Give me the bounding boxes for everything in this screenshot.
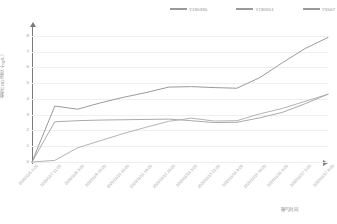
x-axis-tick-label: 2020/11/15 19:00 [243, 164, 267, 189]
x-axis-tick-label: 2020/11/9 15:00 [85, 164, 107, 188]
series-line-1 [32, 94, 328, 162]
x-axis-tick-label: 2020/11/16 9:00 [267, 164, 289, 188]
x-axis-tick-label: 2020/11/17 0:00 [290, 164, 312, 188]
series-line-2 [32, 94, 328, 162]
legend-item-0[interactable]: Y190330 [170, 7, 207, 12]
chart-container: Y190330 Y190551 Y5567 剩余COD浓度（mg/L） 曝气时间… [0, 0, 337, 224]
y-axis-title: 剩余COD浓度（mg/L） [1, 52, 10, 98]
legend-swatch-icon [303, 8, 320, 9]
x-axis-tick-label: 2020/11/12 19:00 [152, 164, 176, 189]
x-axis-tick-label: 2020/11/14 8:00 [221, 164, 243, 188]
x-axis-tick-label: 2020/11/17 8:00 [312, 164, 334, 188]
legend-swatch-icon [170, 8, 187, 9]
x-axis-tick-label: 2020/11/7 11:00 [39, 164, 61, 187]
y-axis-tick-label: 0 [27, 160, 29, 164]
chart-legend: Y190330 Y190551 Y5567 [170, 3, 335, 15]
x-axis-tick-label: 2020/11/13 22:00 [197, 164, 221, 189]
legend-label: Y5567 [322, 7, 335, 12]
y-axis-tick-label: 7 [27, 49, 29, 53]
gridline [32, 162, 328, 163]
legend-label: Y190551 [255, 7, 273, 12]
x-axis-tick-label: 2020/11/11 18:00 [129, 164, 153, 189]
legend-swatch-icon [236, 8, 253, 9]
y-axis-tick-label: 3 [27, 113, 29, 117]
y-axis-tick-label: 8 [27, 34, 29, 38]
y-axis-tick-label: 5 [27, 81, 29, 85]
y-axis-tick-label: 2 [27, 128, 29, 132]
legend-item-1[interactable]: Y190551 [236, 7, 273, 12]
x-axis-title: 曝气时间 [281, 206, 298, 212]
x-axis-tick-label: 2020/11/6 0:00 [18, 164, 39, 186]
plot-area: 012345678 [32, 28, 328, 162]
legend-label: Y190330 [189, 7, 207, 12]
y-axis-tick-label: 4 [27, 97, 29, 101]
series-lines [32, 28, 328, 162]
y-axis-tick-label: 1 [27, 144, 29, 148]
legend-item-2[interactable]: Y5567 [303, 7, 335, 12]
x-axis-tick-label: 2020/11/10 10:00 [106, 164, 130, 189]
series-line-0 [32, 37, 328, 162]
y-axis-tick-label: 6 [27, 65, 29, 69]
x-axis-tick-label: 2020/11/8 3:00 [64, 164, 85, 186]
x-axis-tick-labels: 2020/11/6 0:002020/11/7 11:002020/11/8 3… [32, 164, 328, 206]
x-axis-tick-label: 2020/11/13 3:00 [176, 164, 198, 188]
y-axis-arrow-icon [30, 22, 36, 27]
